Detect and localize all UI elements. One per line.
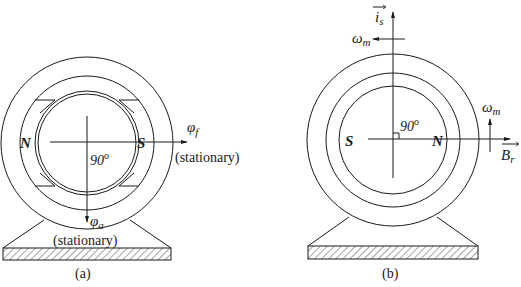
pole-label-s-a: S [137, 135, 145, 151]
caption-a: (a) [75, 266, 91, 282]
figure-a: N S 90o φf (stationary) φa (stationary) … [1, 57, 240, 282]
pole-label-n-a: N [19, 135, 32, 151]
field-flux-state: (stationary) [175, 150, 240, 166]
stator-current-label: is [373, 5, 386, 27]
rotor-field-label: Br [501, 142, 519, 165]
armature-flux-state: (stationary) [53, 233, 118, 249]
speed-label-top: ωm [352, 30, 371, 48]
svg-text:Br: Br [501, 147, 515, 165]
figure-b: S N 90o is ωm ωm Br (b) [307, 5, 519, 282]
motor-diagrams: N S 90o φf (stationary) φa (stationary) … [0, 0, 521, 287]
pole-label-n-b: N [431, 133, 444, 149]
pole-label-s-b: S [345, 133, 353, 149]
field-flux-label: φf [187, 119, 200, 138]
speed-label-right: ωm [482, 99, 501, 117]
caption-b: (b) [382, 266, 399, 282]
svg-text:is: is [375, 9, 383, 27]
